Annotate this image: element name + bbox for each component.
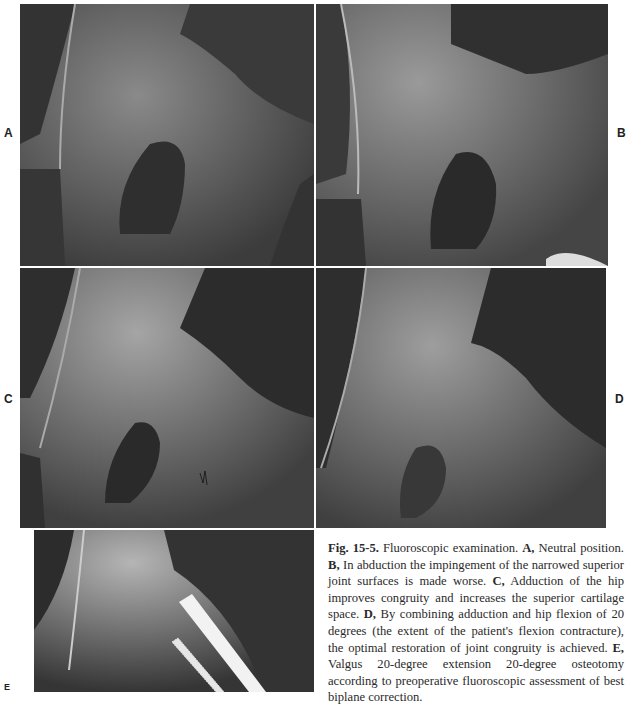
- panel-label-d: D: [615, 392, 624, 406]
- panel-label-e: E: [4, 682, 10, 692]
- figure-caption: Fig. 15-5. Fluoroscopic examination. A, …: [328, 540, 624, 706]
- figure-number: Fig. 15-5.: [328, 541, 379, 555]
- panel-label-b: B: [617, 126, 626, 140]
- xray-panel-b: [316, 4, 608, 266]
- xray-panel-d: [316, 268, 606, 528]
- xray-panel-e: [34, 530, 314, 692]
- panel-label-a: A: [4, 126, 13, 140]
- xray-panel-a: [20, 4, 314, 266]
- hip-xray-osteotomy-image: [34, 530, 314, 692]
- hip-xray-adduction-flexion-image: [316, 268, 606, 528]
- hip-xray-abduction-image: [316, 4, 608, 266]
- hip-xray-neutral-image: [20, 4, 314, 266]
- hip-xray-adduction-image: [20, 268, 314, 528]
- xray-panel-c: [20, 268, 314, 528]
- panel-label-c: C: [4, 392, 13, 406]
